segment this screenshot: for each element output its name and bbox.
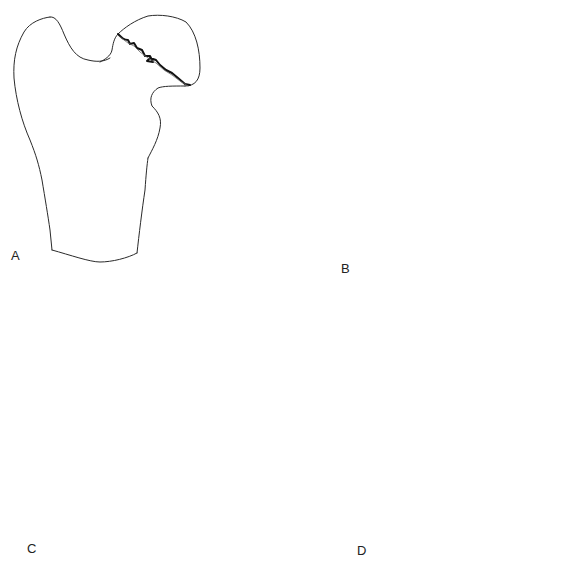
panel-a-femur-drawing [14,15,200,262]
femur-fracture-figure [0,0,572,566]
panel-label-c: C [27,541,36,556]
panel-label-b: B [341,261,350,276]
panel-a-neck-upper [100,34,118,62]
panel-label-d: D [357,543,366,558]
panel-a-fracture-line [118,34,190,85]
panel-a-greater-trochanter [50,17,110,61]
panel-label-a: A [11,248,20,263]
panel-a-femur-outline [14,15,200,262]
